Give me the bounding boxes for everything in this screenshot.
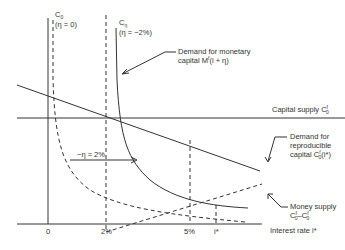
c0-label: C0 xyxy=(55,10,63,20)
c0-param: (η = 0) xyxy=(55,20,77,29)
capital-supply-label: Capital supply Cf0 xyxy=(272,104,329,115)
shift-label: −η = 2% xyxy=(77,150,105,159)
demand-repro-label-1: Demand for xyxy=(290,132,330,141)
tick-2pct: 2% xyxy=(101,227,112,236)
c-eta-label: Cη xyxy=(119,18,127,28)
money-supply-line xyxy=(106,184,262,232)
tick-istar: i* xyxy=(214,227,219,236)
tick-5pct: 5% xyxy=(184,227,195,236)
money-supply-label-2: Cf0–Cf0 xyxy=(290,210,310,221)
money-supply-label-1: Money supply xyxy=(290,202,337,211)
tick-0: 0 xyxy=(46,227,50,236)
money-supply-pointer xyxy=(268,194,288,207)
x-axis-label: Interest rate i* xyxy=(270,226,317,235)
demand-repro-label-2: reproducible xyxy=(290,141,331,150)
demand-monetary-label-2: capital Mf(i + η) xyxy=(178,55,229,65)
demand-repro-label-3: capital Cf0(i*) xyxy=(290,149,331,160)
interest-rate-diagram: C0 (η = 0) Cη (η = −2%) Demand for monet… xyxy=(0,0,345,250)
monetary-demand-pointer xyxy=(122,52,176,74)
c-eta-param: (η = −2%) xyxy=(119,28,152,37)
demand-monetary-label-1: Demand for monetary xyxy=(178,47,251,56)
